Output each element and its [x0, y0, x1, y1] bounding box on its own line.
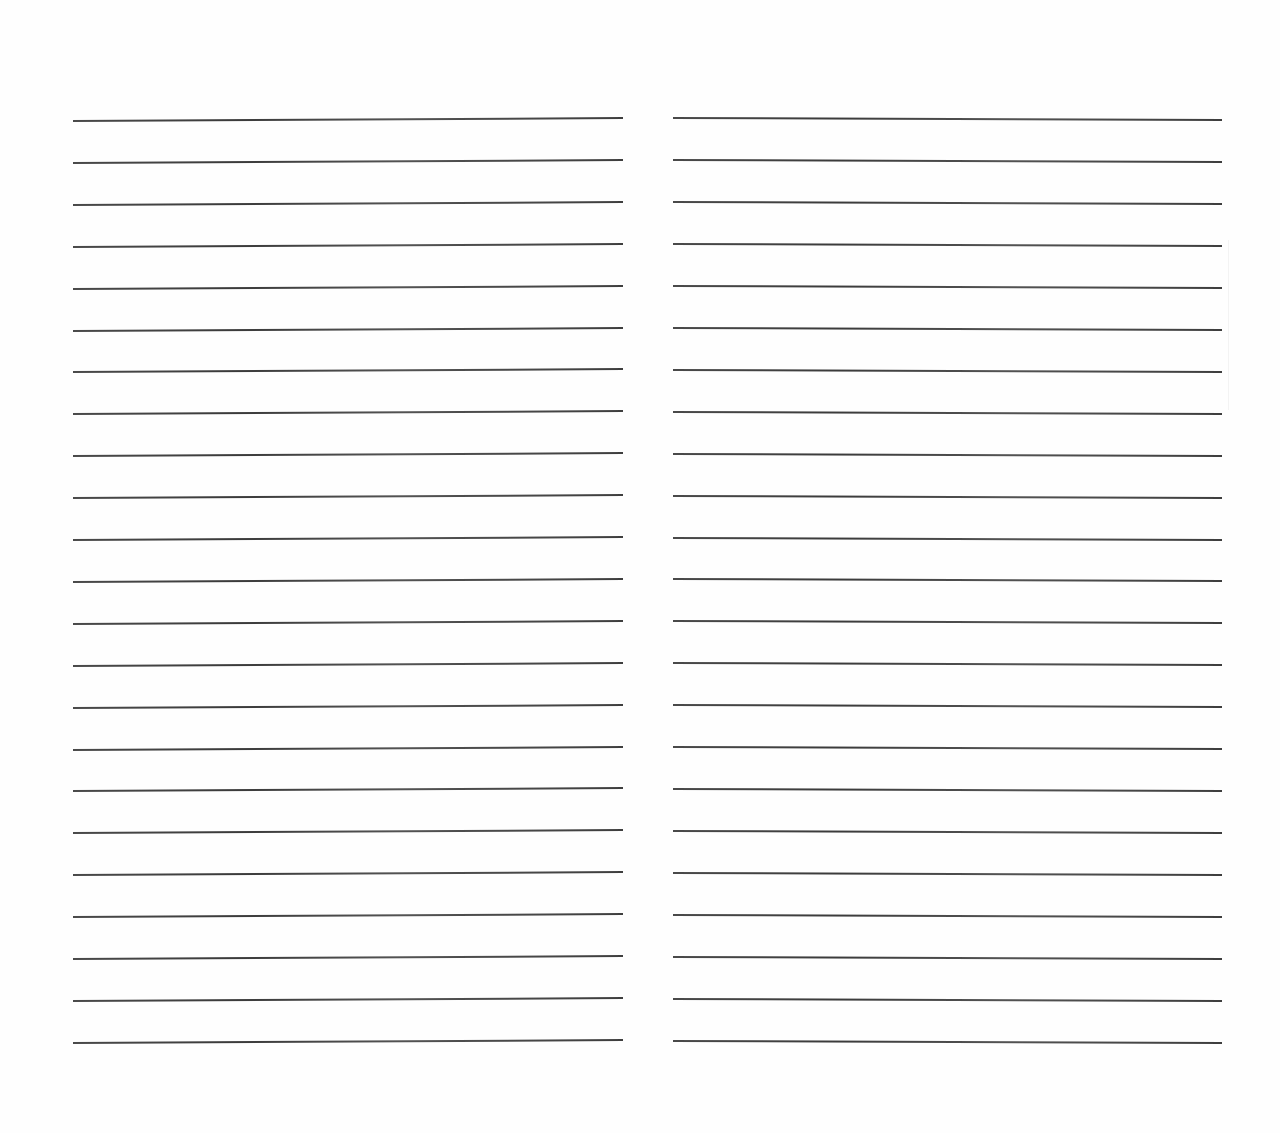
ruled-line: [73, 369, 623, 373]
ruled-line: [73, 997, 623, 1001]
ruled-line: [673, 369, 1222, 373]
ruled-line: [73, 704, 623, 708]
ruled-line: [673, 411, 1222, 415]
ruled-line: [73, 494, 623, 498]
ruled-line: [73, 243, 623, 247]
ruled-line: [73, 159, 623, 163]
ruled-line: [73, 620, 623, 624]
ruled-line: [73, 746, 623, 750]
lined-paper-page: [0, 0, 1280, 1133]
ruled-line: [673, 662, 1222, 666]
ruled-line: [673, 117, 1222, 121]
ruled-line: [673, 620, 1222, 624]
ruled-line: [73, 327, 623, 331]
ruled-line: [673, 746, 1222, 750]
ruled-line: [673, 453, 1222, 457]
ruled-line: [73, 201, 623, 205]
ruled-line: [73, 1039, 623, 1043]
ruled-line: [673, 159, 1222, 163]
ruled-line: [673, 578, 1222, 582]
ruled-line: [73, 913, 623, 917]
ruled-line: [73, 117, 623, 121]
ruled-line: [673, 830, 1222, 834]
ruled-line: [673, 285, 1222, 289]
ruled-line: [73, 410, 623, 414]
ruled-line: [673, 914, 1222, 918]
right-lined-column: [673, 117, 1222, 1044]
ruled-line: [673, 998, 1222, 1002]
ruled-line: [73, 578, 623, 582]
ruled-line: [673, 537, 1222, 541]
ruled-line: [673, 872, 1222, 876]
ruled-line: [73, 662, 623, 666]
ruled-line: [673, 1040, 1222, 1044]
ruled-line: [73, 536, 623, 540]
ruled-line: [673, 788, 1222, 792]
ruled-line: [673, 327, 1222, 331]
ruled-line: [73, 285, 623, 289]
ruled-line: [73, 452, 623, 456]
ruled-line: [673, 956, 1222, 960]
paper-edge-shadow: [1228, 240, 1229, 410]
ruled-line: [673, 243, 1222, 247]
ruled-line: [73, 871, 623, 875]
ruled-line: [673, 704, 1222, 708]
ruled-line: [673, 201, 1222, 205]
left-lined-column: [73, 120, 623, 1046]
ruled-line: [73, 788, 623, 792]
ruled-line: [73, 955, 623, 959]
ruled-line: [673, 495, 1222, 499]
ruled-line: [73, 829, 623, 833]
